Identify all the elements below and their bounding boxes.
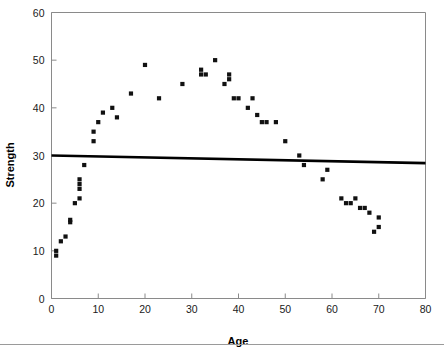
data-point [204,72,208,76]
y-tick-label: 30 [33,150,45,162]
x-tick-label: 30 [186,303,198,315]
data-point [349,201,353,205]
data-point [222,82,226,86]
data-point [68,218,72,222]
data-point [77,196,81,200]
data-point [321,177,325,181]
data-point [297,153,301,157]
fitted-regression-line [52,156,426,164]
data-point [63,234,67,238]
data-point [353,196,357,200]
y-tick-label: 0 [39,293,45,305]
data-point [77,187,81,191]
data-point [264,120,268,124]
x-tick-label: 20 [139,303,151,315]
y-axis-tick-labels: 0102030405060 [33,7,45,305]
data-point [260,120,264,124]
data-point [377,225,381,229]
x-tick-label: 60 [326,303,338,315]
data-point [274,120,278,124]
y-tick-label: 10 [33,245,45,257]
x-tick-label: 40 [233,303,245,315]
data-point [77,182,81,186]
y-tick-label: 60 [33,7,45,19]
data-point [227,72,231,76]
data-point [250,96,254,100]
footer-divider [0,344,444,345]
data-point [325,168,329,172]
data-point [199,72,203,76]
data-point [110,106,114,110]
y-tick-label: 40 [33,102,45,114]
data-point [54,254,58,258]
x-tick-label: 50 [279,303,291,315]
data-point [91,130,95,134]
data-point [91,139,95,143]
data-point [377,215,381,219]
x-tick-label: 10 [92,303,104,315]
data-point [236,96,240,100]
data-point [302,163,306,167]
data-point [101,111,105,115]
data-point [115,115,119,119]
x-tick-label: 0 [49,303,55,315]
data-point [73,201,77,205]
data-point [96,120,100,124]
data-point [143,63,147,67]
scatter-plot-figure: 01020304050607080 0102030405060 Age Stre… [0,0,444,359]
data-point [77,177,81,181]
y-tick-label: 20 [33,197,45,209]
data-point [82,163,86,167]
data-point [232,96,236,100]
y-axis-title: Strength [4,142,16,188]
data-point [367,211,371,215]
y-tick-label: 50 [33,54,45,66]
data-point [344,201,348,205]
data-point [339,196,343,200]
data-point [213,58,217,62]
data-point [363,206,367,210]
data-point [255,113,259,117]
x-axis-tick-labels: 01020304050607080 [49,303,432,315]
data-point [227,77,231,81]
x-axis-title: Age [228,335,249,347]
data-point [246,106,250,110]
data-point [372,230,376,234]
data-point [358,206,362,210]
x-axis-ticks [52,294,426,299]
data-point [59,239,63,243]
data-point [180,82,184,86]
x-tick-label: 80 [420,303,432,315]
x-tick-label: 70 [373,303,385,315]
data-point [283,139,287,143]
data-point [157,96,161,100]
data-point [129,91,133,95]
data-point [199,68,203,72]
data-point [54,249,58,253]
plot-canvas: 01020304050607080 0102030405060 Age Stre… [0,0,444,359]
